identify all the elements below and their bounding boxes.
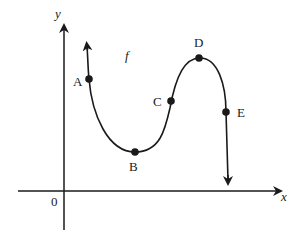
point-d bbox=[195, 54, 203, 62]
point-c-label: C bbox=[153, 94, 162, 109]
point-d-label: D bbox=[194, 35, 203, 50]
x-axis-label: x bbox=[280, 189, 287, 204]
point-a-label: A bbox=[73, 74, 83, 89]
function-label: f bbox=[125, 48, 131, 63]
function-graph: y x 0 f A B C D E bbox=[0, 0, 301, 238]
point-b-label: B bbox=[129, 159, 138, 174]
point-e-label: E bbox=[237, 105, 245, 120]
point-b bbox=[131, 148, 139, 156]
point-a bbox=[85, 75, 93, 83]
curve-start-arrow bbox=[87, 46, 88, 50]
origin-label: 0 bbox=[51, 194, 58, 209]
point-c bbox=[167, 97, 175, 105]
curve-f bbox=[87, 46, 228, 180]
y-axis-label: y bbox=[53, 6, 61, 21]
point-e bbox=[222, 108, 230, 116]
